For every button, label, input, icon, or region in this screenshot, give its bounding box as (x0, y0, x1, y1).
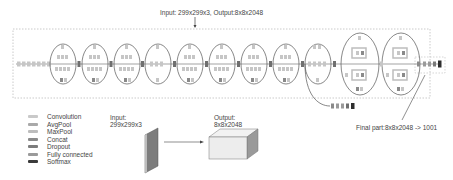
stem-layers (17, 62, 51, 67)
top-caption: Input: 299x299x3, Output:8x8x2048 (160, 9, 263, 16)
maxpool-swatch-icon (28, 130, 38, 133)
legend-item-convolution: Convolution (28, 113, 93, 121)
final-caption-pointer (402, 75, 425, 120)
legend: Convolution AvgPool MaxPool Concat Dropo… (28, 113, 93, 166)
softmax-swatch-icon (28, 160, 38, 163)
legend-item-fully-connected: Fully connected (28, 151, 93, 159)
auxiliary-layers (331, 103, 355, 109)
legend-item-avgpool: AvgPool (28, 121, 93, 129)
legend-item-concat: Concat (28, 136, 93, 144)
avgpool-swatch-icon (28, 123, 38, 126)
legend-item-dropout: Dropout (28, 143, 93, 151)
input-label: Input: (110, 114, 126, 121)
legend-item-softmax: Softmax (28, 158, 93, 166)
transform-arrowhead (200, 141, 204, 144)
output-label: Output: (214, 114, 235, 121)
output-tensor-illustration (209, 129, 258, 159)
legend-item-maxpool: MaxPool (28, 128, 93, 136)
final-part-caption: Final part:8x8x2048 -> 1001 (356, 124, 437, 131)
fully-connected-swatch-icon (28, 153, 38, 156)
main-network-box (13, 29, 430, 98)
convolution-swatch-icon (28, 115, 38, 118)
auxiliary-branch-line (305, 64, 330, 106)
concat-swatch-icon (28, 138, 38, 141)
input-tensor-illustration (145, 128, 158, 173)
input-size: 299x299x3 (110, 121, 142, 128)
output-size: 8x8x2048 (214, 121, 242, 128)
caption-arrowhead (194, 25, 197, 28)
dropout-swatch-icon (28, 145, 38, 148)
